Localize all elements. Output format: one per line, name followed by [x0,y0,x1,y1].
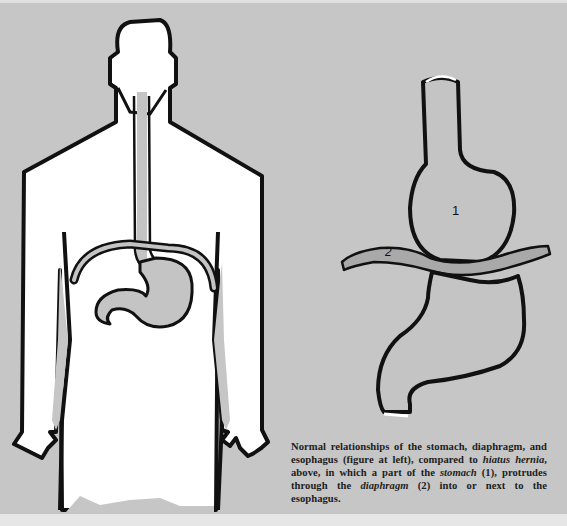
stomach-lower [378,272,524,412]
white-highlight-lower [384,414,408,416]
herniated-stomach-upper [410,78,514,262]
esophagus-tube [137,92,147,260]
caption-term-diaphragm: diaphragm [360,480,408,491]
figure-caption: Normal relationships of the stomach, dia… [291,440,547,505]
caption-term-stomach: stomach [440,467,477,478]
caption-term-hiatus-hernia: hiatus hernia [483,454,544,465]
bottom-margin [0,514,567,526]
body-figure [14,20,268,512]
diaphragm-label-2: 2 [385,245,392,259]
stomach-label-1: 1 [452,203,459,218]
hiatus-hernia-figure [342,76,550,416]
